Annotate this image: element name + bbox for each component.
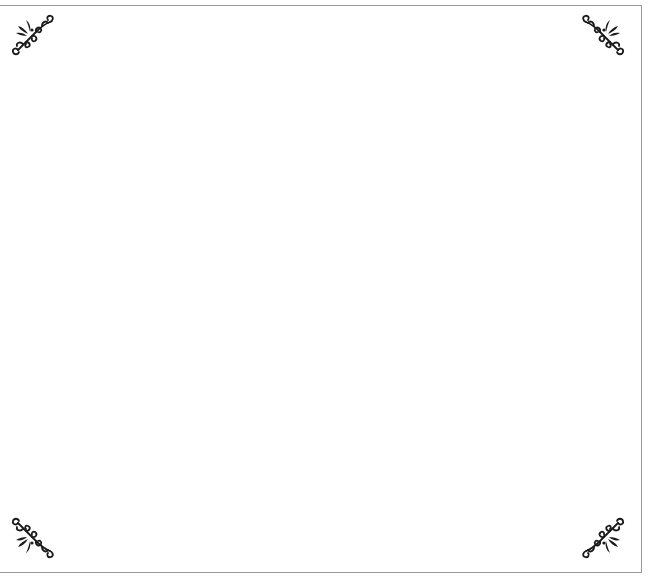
flourish-icon-top-right xyxy=(580,10,630,60)
decorative-frame xyxy=(0,5,642,573)
flourish-icon xyxy=(580,513,630,563)
flourish-icon xyxy=(6,10,56,60)
flourish-icon-top-left xyxy=(6,10,56,60)
flourish-icon xyxy=(580,10,630,60)
flourish-icon-bottom-right xyxy=(580,513,630,563)
flourish-icon-bottom-left xyxy=(6,513,56,563)
flourish-icon xyxy=(6,513,56,563)
